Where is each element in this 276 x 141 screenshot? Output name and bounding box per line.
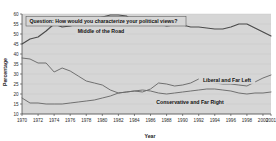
y-tick-label: 15: [13, 102, 19, 107]
x-tick-label: 1982: [113, 118, 124, 123]
x-tick-label: 2001: [266, 118, 276, 123]
series-label-conservative-and-far-right: Conservative and Far Right: [156, 99, 224, 105]
y-axis-title: Percentage: [2, 58, 8, 86]
x-tick-label: 1978: [81, 118, 92, 123]
y-tick-label: 10: [13, 112, 19, 117]
x-tick-label: 1994: [210, 118, 221, 123]
series-label-liberal-and-far-left: Liberal and Far Left: [203, 77, 251, 83]
chart-title-box: Question: How would you characterize you…: [26, 17, 186, 27]
x-tick-label: 1974: [49, 118, 60, 123]
x-tick-label: 1970: [17, 118, 28, 123]
y-tick-label: 60: [13, 12, 19, 17]
y-tick-label: 20: [13, 92, 19, 97]
x-axis-title: Year: [145, 133, 156, 139]
x-tick-label: 1998: [242, 118, 253, 123]
x-tick-label: 1986: [145, 118, 156, 123]
series-label-middle-of-the-road: Middle of the Road: [78, 28, 124, 34]
y-tick-label: 55: [13, 22, 19, 27]
political-views-line-chart: 1015202530354045505560 19701972197419761…: [0, 0, 276, 141]
chart-container: 1015202530354045505560 19701972197419761…: [0, 0, 276, 141]
x-tick-label: 1980: [97, 118, 108, 123]
y-tick-label: 40: [13, 52, 19, 57]
y-tick-label: 35: [13, 62, 19, 67]
chart-title: Question: How would you characterize you…: [30, 18, 178, 24]
x-tick-label: 1984: [129, 118, 140, 123]
x-tick-label: 1990: [178, 118, 189, 123]
x-tick-label: 1992: [194, 118, 205, 123]
y-tick-label: 50: [13, 32, 19, 37]
y-tick-label: 30: [13, 72, 19, 77]
y-tick-label: 25: [13, 82, 19, 87]
x-tick-label: 1976: [65, 118, 76, 123]
x-tick-label: 1972: [33, 118, 44, 123]
x-tick-label: 1988: [161, 118, 172, 123]
x-tick-label: 1996: [226, 118, 237, 123]
y-tick-label: 45: [13, 42, 19, 47]
